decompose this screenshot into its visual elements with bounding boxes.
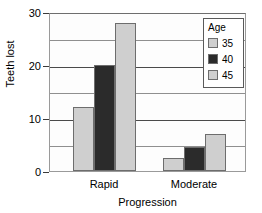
legend-swatch-icon-45 [208, 70, 218, 80]
y-tick-mark-0 [43, 172, 49, 173]
gridline-15 [50, 93, 245, 94]
legend-label-35: 35 [222, 38, 233, 49]
bar-moderate-35 [163, 158, 184, 171]
y-tick-label-0: 0 [1, 166, 41, 178]
x-axis-title: Progression [49, 196, 246, 208]
x-tick-label-moderate: Moderate [164, 178, 224, 190]
bar-rapid-45 [115, 23, 136, 171]
y-tick-label-30: 30 [1, 7, 41, 19]
bar-moderate-40 [184, 147, 205, 171]
legend-label-45: 45 [222, 70, 233, 81]
legend-item-45: 45 [208, 67, 240, 83]
legend-item-35: 35 [208, 35, 240, 51]
bar-rapid-35 [73, 107, 94, 171]
bar-chart: Teeth lost 30 20 10 0 Rapid Moderate Pro… [0, 0, 262, 213]
legend-swatch-icon-35 [208, 38, 218, 48]
y-tick-label-10: 10 [1, 113, 41, 125]
y-tick-label-20: 20 [1, 60, 41, 72]
bar-rapid-40 [94, 65, 115, 171]
legend-swatch-icon-40 [208, 54, 218, 64]
bar-moderate-45 [205, 134, 226, 171]
legend-item-40: 40 [208, 51, 240, 67]
legend-label-40: 40 [222, 54, 233, 65]
x-tick-label-rapid: Rapid [74, 178, 134, 190]
legend: Age 35 40 45 [203, 18, 244, 88]
legend-title: Age [208, 22, 240, 33]
